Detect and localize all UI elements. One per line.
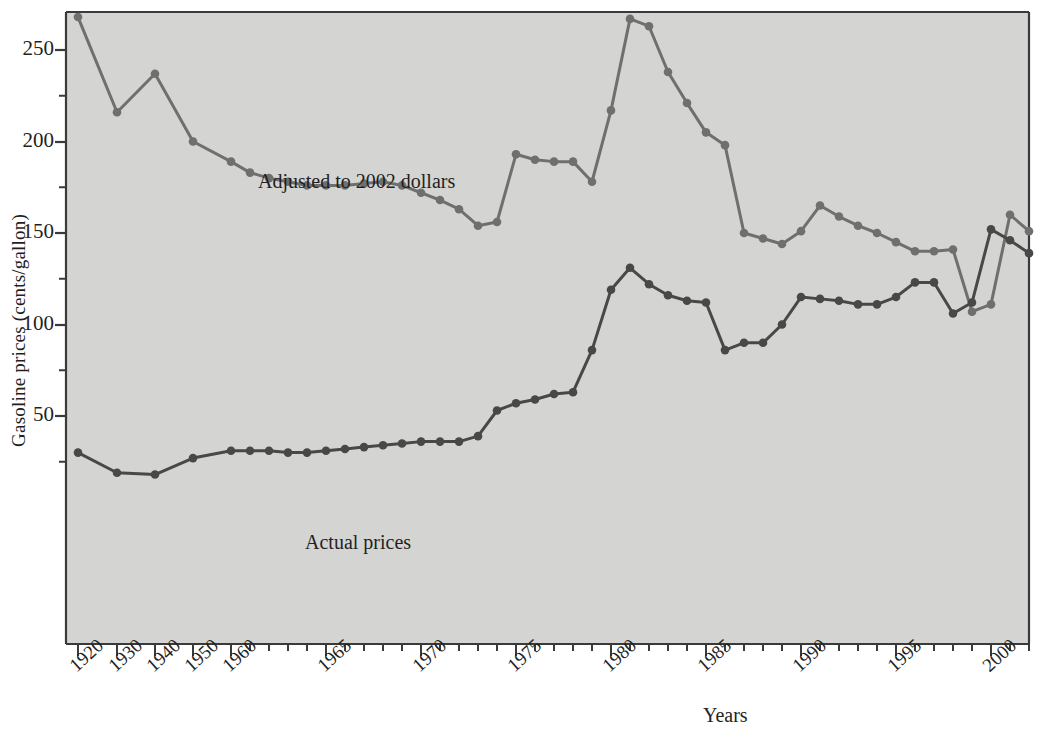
data-point [873, 229, 882, 238]
data-point [360, 443, 369, 452]
data-point [607, 285, 616, 294]
data-point [626, 263, 635, 272]
data-point [341, 445, 350, 454]
data-point [436, 437, 445, 446]
data-point [246, 168, 255, 177]
data-point [949, 309, 958, 318]
data-point [645, 22, 654, 31]
data-point [265, 446, 274, 455]
data-point [816, 295, 825, 304]
data-point [835, 296, 844, 305]
data-point [721, 141, 730, 150]
data-point [816, 201, 825, 210]
y-tick-label: 200 [8, 128, 54, 153]
data-point [911, 247, 920, 256]
data-point [227, 446, 236, 455]
data-point [968, 298, 977, 307]
data-point [512, 150, 521, 159]
data-point [227, 157, 236, 166]
data-point [303, 448, 312, 457]
data-point [797, 227, 806, 236]
data-point [569, 157, 578, 166]
data-point [455, 437, 464, 446]
data-point [569, 388, 578, 397]
data-point [683, 296, 692, 305]
data-point [664, 291, 673, 300]
data-point [493, 406, 502, 415]
data-point [854, 221, 863, 230]
data-point [683, 99, 692, 108]
data-point [151, 69, 160, 78]
data-point [151, 470, 160, 479]
data-point [322, 446, 331, 455]
data-point [835, 212, 844, 221]
plot-background [66, 12, 1029, 644]
data-point [911, 278, 920, 287]
data-point [778, 240, 787, 249]
data-point [284, 448, 293, 457]
data-point [873, 300, 882, 309]
x-axis-title: Years [703, 704, 748, 727]
data-point [455, 205, 464, 214]
data-point [740, 229, 749, 238]
data-point [930, 247, 939, 256]
data-point [949, 245, 958, 254]
data-point [474, 432, 483, 441]
data-point [626, 15, 635, 24]
data-point [759, 234, 768, 243]
data-point [721, 346, 730, 355]
data-point [379, 441, 388, 450]
series-label-adjusted: Adjusted to 2002 dollars [258, 170, 455, 193]
data-point [550, 390, 559, 399]
data-point [588, 177, 597, 186]
data-point [607, 106, 616, 115]
data-point [113, 108, 122, 117]
gasoline-prices-figure: Gasoline prices (cents/gallon) 250200150… [0, 0, 1045, 738]
data-point [189, 137, 198, 146]
data-point [588, 346, 597, 355]
y-tick-label: 50 [8, 402, 54, 427]
data-point [74, 13, 83, 22]
data-point [702, 128, 711, 137]
data-point [645, 280, 654, 289]
data-point [417, 437, 426, 446]
data-point [531, 156, 540, 165]
data-point [531, 395, 540, 404]
data-point [1025, 249, 1034, 258]
data-point [854, 300, 863, 309]
data-point [113, 468, 122, 477]
data-point [664, 68, 673, 77]
data-point [512, 399, 521, 408]
data-point [398, 439, 407, 448]
data-point [740, 339, 749, 348]
data-point [74, 448, 83, 457]
data-point [797, 293, 806, 302]
data-point [1025, 227, 1034, 236]
data-point [987, 225, 996, 234]
y-tick-label: 250 [8, 36, 54, 61]
data-point [436, 196, 445, 205]
data-point [474, 221, 483, 230]
y-axis-ticks [55, 50, 66, 462]
data-point [930, 278, 939, 287]
data-point [1006, 210, 1015, 219]
data-point [1006, 236, 1015, 245]
data-point [892, 238, 901, 247]
y-tick-label: 150 [8, 219, 54, 244]
data-point [778, 320, 787, 329]
y-tick-label: 100 [8, 311, 54, 336]
series-label-actual: Actual prices [305, 531, 411, 554]
data-point [246, 446, 255, 455]
data-point [702, 298, 711, 307]
data-point [759, 339, 768, 348]
data-point [493, 218, 502, 227]
data-point [968, 307, 977, 316]
data-point [987, 300, 996, 309]
data-point [189, 454, 198, 463]
data-point [892, 293, 901, 302]
chart-canvas [0, 0, 1045, 738]
data-point [550, 157, 559, 166]
